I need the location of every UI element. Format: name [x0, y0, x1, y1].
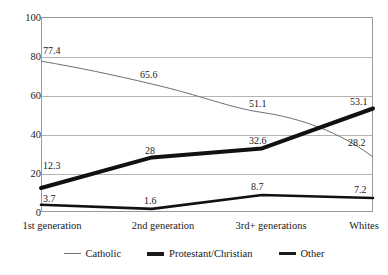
series-line-other: [41, 195, 373, 209]
data-label-protestant-2: 28: [145, 146, 155, 156]
data-label-other-2: 1.6: [144, 196, 157, 206]
data-label-catholic-4: 28.2: [348, 138, 366, 148]
data-label-protestant-4: 53.1: [350, 97, 368, 107]
x-axis-tick-3rd-generations: 3rd+ generations: [236, 220, 307, 232]
legend-swatch-other-icon: [279, 252, 296, 255]
data-label-other-4: 7.2: [354, 185, 367, 195]
series-lines: [0, 0, 388, 275]
x-axis-tick-2nd-generation: 2nd generation: [132, 220, 195, 232]
data-label-catholic-1: 77.4: [43, 46, 61, 56]
data-label-protestant-1: 12.3: [43, 161, 61, 171]
line-chart: 100 80 60 40 20 0 77.4 65.6 51.1 28.2 12…: [0, 0, 388, 275]
chart-legend: Catholic Protestant/Christian Other: [0, 248, 388, 259]
series-line-protestant: [41, 109, 373, 189]
data-label-other-1: 3.7: [43, 194, 56, 204]
data-label-protestant-3: 32.6: [249, 136, 267, 146]
legend-label-protestant: Protestant/Christian: [169, 248, 252, 259]
series-line-catholic: [41, 61, 373, 157]
legend-swatch-protestant-icon: [147, 252, 164, 256]
data-label-catholic-2: 65.6: [140, 70, 158, 80]
legend-label-catholic: Catholic: [86, 248, 122, 259]
x-axis-tick-1st-generation: 1st generation: [22, 220, 81, 232]
x-axis-tick-whites: Whites: [349, 220, 379, 232]
legend-item-protestant: Protestant/Christian: [147, 248, 252, 259]
legend-label-other: Other: [301, 248, 325, 259]
data-label-catholic-3: 51.1: [249, 99, 267, 109]
legend-swatch-catholic-icon: [64, 253, 81, 254]
data-label-other-3: 8.7: [251, 182, 264, 192]
legend-item-other: Other: [279, 248, 325, 259]
legend-item-catholic: Catholic: [64, 248, 122, 259]
